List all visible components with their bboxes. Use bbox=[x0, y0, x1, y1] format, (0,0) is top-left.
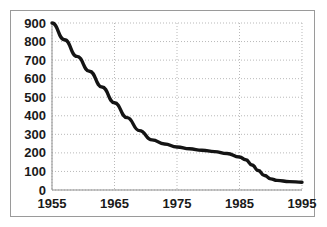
y-tick-label: 700 bbox=[24, 53, 46, 68]
vertical-gridlines-group bbox=[52, 23, 302, 190]
y-tick-label: 400 bbox=[24, 108, 46, 123]
y-axis-tick-labels: 0100200300400500600700800900 bbox=[24, 16, 46, 198]
x-axis-tick-labels: 19551965197519851995 bbox=[38, 196, 317, 211]
x-tick-label: 1965 bbox=[100, 196, 129, 211]
x-tick-label: 1975 bbox=[163, 196, 192, 211]
y-tick-label: 100 bbox=[24, 164, 46, 179]
y-tick-label: 800 bbox=[24, 34, 46, 49]
x-tick-label: 1955 bbox=[38, 196, 67, 211]
y-tick-label: 900 bbox=[24, 16, 46, 31]
chart-figure: 0100200300400500600700800900 19551965197… bbox=[0, 0, 327, 227]
y-tick-label: 300 bbox=[24, 127, 46, 142]
line-chart-plot: 0100200300400500600700800900 19551965197… bbox=[0, 0, 327, 227]
x-tick-label: 1995 bbox=[288, 196, 317, 211]
y-tick-label: 600 bbox=[24, 71, 46, 86]
x-tick-label: 1985 bbox=[225, 196, 254, 211]
y-tick-label: 500 bbox=[24, 90, 46, 105]
y-tick-label: 200 bbox=[24, 145, 46, 160]
